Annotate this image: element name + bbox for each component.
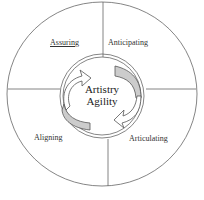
center-label: Artistry Agility: [82, 83, 122, 107]
center-label-agility: Agility: [82, 95, 122, 107]
quadrant-label-anticipating: Anticipating: [108, 38, 148, 47]
quadrant-label-aligning: Aligning: [34, 133, 62, 142]
center-label-artistry: Artistry: [82, 83, 122, 95]
quadrant-label-articulating: Articulating: [129, 134, 168, 143]
quadrant-label-assuring: Assuring: [50, 38, 79, 47]
